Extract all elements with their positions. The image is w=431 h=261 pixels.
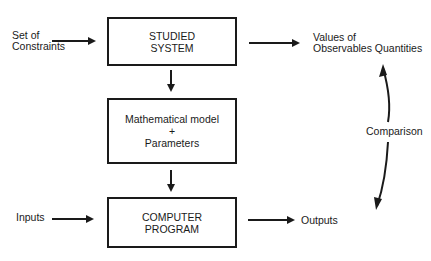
observables-label-line2: Observables Quantities: [313, 43, 422, 54]
inputs-label: Inputs: [16, 212, 45, 223]
computer-program-line2: PROGRAM: [145, 223, 199, 235]
comparison-double-arrow: [377, 68, 389, 206]
math-model-line3: Parameters: [145, 137, 199, 149]
studied-system-line2: SYSTEM: [150, 42, 193, 54]
studied-system-box: STUDIED SYSTEM: [107, 17, 237, 66]
studied-system-line1: STUDIED: [149, 30, 195, 42]
computer-program-box: COMPUTER PROGRAM: [107, 197, 237, 248]
outputs-label: Outputs: [301, 215, 338, 226]
comparison-arrowhead-down: [374, 197, 382, 210]
comparison-label: Comparison: [366, 126, 423, 137]
constraints-label-line2: Constraints: [12, 41, 65, 52]
computer-program-line1: COMPUTER: [142, 211, 202, 223]
observables-label: Values of Observables Quantities: [313, 32, 422, 54]
math-model-box: Mathematical model + Parameters: [107, 98, 237, 164]
comparison-arrowhead-up: [379, 64, 387, 77]
math-model-plus: +: [169, 125, 175, 137]
constraints-label: Set of Constraints: [12, 30, 65, 52]
math-model-line1: Mathematical model: [125, 113, 219, 125]
